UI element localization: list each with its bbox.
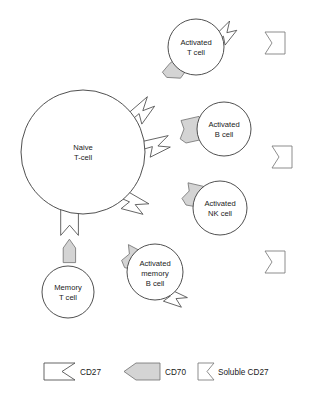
cell-activated-nk-cell: Activated NK cell (182, 181, 247, 235)
cell-label-activated-t-cell-line2: T cell (187, 48, 205, 57)
cell-label-activated-b-cell: Activated (208, 120, 239, 129)
cell-label-activated-memory-b-cell-line2: memory (141, 269, 169, 278)
cell-label-activated-memory-b-cell: Activated (139, 259, 170, 268)
cell-activated-t-cell: Activated T cell (162, 19, 236, 78)
cd70-ligand-icon (63, 239, 75, 262)
cell-label-activated-nk-cell-line2: NK cell (208, 209, 232, 218)
cell-label-activated-memory-b-cell-line3: B cell (146, 279, 165, 288)
cd27-receptor-icon (44, 363, 75, 380)
cd27-cd70-diagram: Naive T-cell Activated T cell Activated (0, 0, 312, 400)
cell-label-activated-t-cell: Activated (180, 38, 211, 47)
cell-activated-b-cell: Activated B cell (180, 102, 251, 156)
legend-label-cd27: CD27 (80, 368, 101, 377)
cell-label-naive-t-cell-line2: T-cell (74, 153, 92, 162)
cell-membrane (21, 90, 145, 214)
cell-label-memory-t-cell-line2: T cell (59, 293, 77, 302)
legend: CD27 CD70 Soluble CD27 (44, 363, 269, 380)
soluble-cd27-icon (265, 32, 285, 54)
cell-membrane (197, 102, 251, 156)
cell-membrane (168, 19, 224, 75)
legend-item-cd27: CD27 (44, 363, 101, 380)
soluble-cd27-icon (272, 146, 292, 168)
cell-membrane (42, 266, 94, 318)
cell-activated-memory-b-cell: Activated memory B cell (122, 244, 188, 307)
cell-label-memory-t-cell: Memory (54, 283, 82, 292)
cell-label-activated-nk-cell: Activated (204, 199, 235, 208)
diagram-canvas: Naive T-cell Activated T cell Activated (0, 0, 312, 400)
legend-item-cd70: CD70 (124, 363, 186, 380)
legend-label-soluble-cd27: Soluble CD27 (218, 368, 269, 377)
cell-naive-t-cell: Naive T-cell (21, 90, 170, 235)
soluble-cd27-icon (198, 363, 214, 380)
cell-label-activated-b-cell-line2: B cell (215, 130, 234, 139)
cd70-ligand-icon (124, 363, 160, 380)
cell-memory-t-cell: Memory T cell (42, 239, 94, 318)
legend-label-cd70: CD70 (165, 368, 186, 377)
cd27-receptor-icon (142, 136, 170, 158)
legend-item-soluble-cd27: Soluble CD27 (198, 363, 269, 380)
cell-membrane (193, 181, 247, 235)
soluble-cd27-icon (265, 251, 285, 273)
cell-label-naive-t-cell: Naive (73, 143, 92, 152)
